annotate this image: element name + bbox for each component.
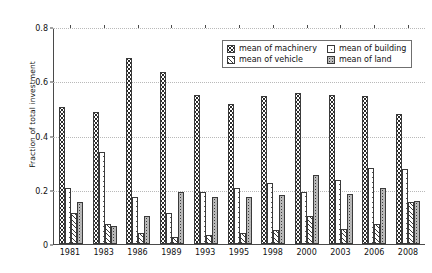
bar-group [121,28,155,244]
x-axis-tick-label: 2003 [324,248,358,257]
legend-label: mean of vehicle [239,55,303,64]
swatch-vehicle-icon [227,56,235,64]
y-axis-tick-mark [50,190,53,191]
y-axis-title: Fraction of total investment [28,20,37,210]
swatch-machinery-icon [227,45,235,53]
x-axis-tick-label: 1986 [121,248,155,257]
legend-entry: mean of building [327,44,407,53]
x-axis-tick-mark [104,25,105,28]
legend-entry: mean of machinery [227,44,317,53]
x-axis-tick-mark [340,25,341,28]
legend-label: mean of land [339,55,392,64]
x-axis-tick-mark [205,25,206,28]
bar-group [189,28,223,244]
y-axis-tick-label: 0.2 [35,186,48,195]
y-axis-tick-mark [50,136,53,137]
bar [414,201,420,244]
y-axis-tick-label: 0.4 [35,132,48,141]
bar [313,175,319,244]
x-axis-line [53,244,425,245]
bar-group [54,28,88,244]
bar [77,202,83,244]
y-axis-tick-mark [50,82,53,83]
legend-entry: mean of vehicle [227,55,317,64]
x-axis-tick-mark [374,25,375,28]
bar-group [88,28,122,244]
x-axis-tick-mark [171,25,172,28]
swatch-building-icon [327,45,335,53]
bar [279,195,285,244]
x-axis-tick-mark [239,25,240,28]
x-axis-tick-mark [273,25,274,28]
bar [380,188,386,244]
x-axis-tick-label: 1993 [188,248,222,257]
x-axis-tick-label: 1995 [222,248,256,257]
bar-group [155,28,189,244]
bar-chart-figure: Fraction of total investment 00.20.40.60… [0,0,432,273]
y-axis-tick-mark [50,28,53,29]
y-axis-tick-label: 0.6 [35,78,48,87]
x-axis-tick-label: 1998 [256,248,290,257]
y-axis-tick-label: 0 [43,241,48,250]
bar [246,197,252,244]
legend-label: mean of building [339,44,407,53]
bar [212,197,218,244]
swatch-land-icon [327,56,335,64]
legend-entry: mean of land [327,55,407,64]
x-axis-tick-label: 1989 [154,248,188,257]
y-axis-tick-mark [50,245,53,246]
x-axis-tick-mark [138,25,139,28]
chart-legend: mean of machinerymean of buildingmean of… [222,40,412,68]
y-axis-tick-label: 0.8 [35,24,48,33]
x-axis-tick-label: 2006 [357,248,391,257]
legend-label: mean of machinery [239,44,317,53]
bar [144,216,150,244]
bar [111,226,117,244]
x-axis-tick-labels: 1981198319861989199319951998200020032006… [53,248,425,257]
x-axis-tick-label: 2008 [391,248,425,257]
bar [347,194,353,244]
bar [178,192,184,244]
x-axis-tick-label: 1983 [87,248,121,257]
x-axis-tick-label: 2000 [290,248,324,257]
x-axis-tick-mark [70,25,71,28]
x-axis-tick-mark [408,25,409,28]
x-axis-tick-label: 1981 [53,248,87,257]
x-axis-tick-mark [307,25,308,28]
